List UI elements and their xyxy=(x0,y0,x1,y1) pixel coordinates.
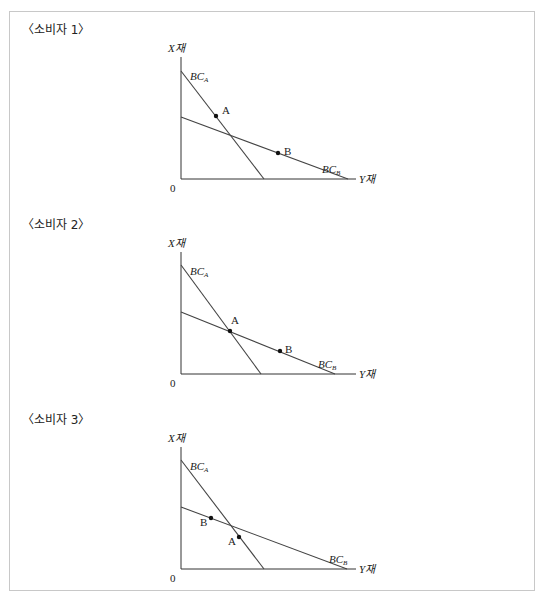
point-a-marker xyxy=(214,114,218,118)
bc-b-label: BCB xyxy=(322,163,341,177)
point-b-marker xyxy=(278,349,282,353)
bc-a-label: BCA xyxy=(190,70,209,84)
point-a-marker xyxy=(237,535,241,539)
y-axis-label: X재 xyxy=(167,237,187,249)
origin-label: 0 xyxy=(170,572,176,584)
budget-line-bc-a xyxy=(181,71,264,179)
bc-b-label: BCB xyxy=(318,358,337,372)
y-axis-label: X재 xyxy=(167,42,187,54)
point-b-marker xyxy=(209,516,213,520)
budget-line-bc-a xyxy=(181,265,261,374)
y-axis-label: X재 xyxy=(167,432,187,444)
bc-a-label: BCA xyxy=(190,460,209,474)
chart-consumer-1: X재 Y재 0 BCA BCB A B xyxy=(167,42,377,194)
budget-line-bc-b xyxy=(181,312,335,374)
x-axis-label: Y재 xyxy=(359,563,377,575)
point-a-marker xyxy=(228,329,232,333)
chart-consumer-2: X재 Y재 0 BCA BCB A B xyxy=(167,237,377,389)
origin-label: 0 xyxy=(170,182,176,194)
budget-constraint-charts: X재 Y재 0 BCA BCB A B X재 Y재 0 BCA BCB A B … xyxy=(0,0,545,603)
point-b-marker xyxy=(276,151,280,155)
budget-line-bc-a xyxy=(181,460,264,569)
point-b-label: B xyxy=(284,145,291,157)
x-axis-label: Y재 xyxy=(359,368,377,380)
origin-label: 0 xyxy=(170,377,176,389)
bc-a-label: BCA xyxy=(190,265,209,279)
point-b-label: B xyxy=(200,516,207,528)
x-axis-label: Y재 xyxy=(359,173,377,185)
bc-b-label: BCB xyxy=(329,553,348,567)
point-b-label: B xyxy=(285,343,292,355)
point-a-label: A xyxy=(231,314,239,326)
chart-consumer-3: X재 Y재 0 BCA BCB B A xyxy=(167,432,377,584)
point-a-label: A xyxy=(228,535,236,547)
point-a-label: A xyxy=(222,104,230,116)
